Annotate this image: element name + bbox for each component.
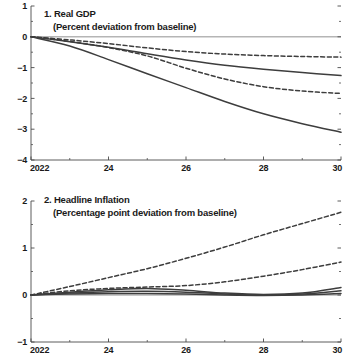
panel-headline-inflation: 210−1202224262830 2. Headline Inflation … [0,180,354,360]
x-tick-label: 30 [332,345,342,355]
x-tick-label: 24 [104,163,114,173]
x-tick-label: 30 [332,163,342,173]
panel-real-gdp: 10−1−2−3−4202224262830 1. Real GDP (Perc… [0,0,354,180]
y-tick-label: −2 [17,94,27,104]
y-tick-label: −4 [17,155,27,165]
series-line-series-1-dashed-upper [31,37,341,57]
x-tick-label: 26 [181,345,191,355]
x-tick-label: 2022 [30,163,49,173]
x-tick-label: 24 [104,345,114,355]
x-tick-label: 2022 [30,345,49,355]
figure-root: 10−1−2−3−4202224262830 1. Real GDP (Perc… [0,0,354,360]
series-line-series-3-dashed-lower [31,37,341,94]
x-tick-label: 28 [259,345,269,355]
y-tick-label: 1 [22,243,27,253]
panel-1-title: 1. Real GDP [44,8,96,20]
y-tick-label: −1 [17,63,27,73]
y-tick-label: 2 [22,196,27,206]
panel-2-subtitle: (Percentage point deviation from baselin… [53,207,237,219]
panel-2-title: 2. Headline Inflation [44,194,130,206]
y-tick-label: 1 [22,1,27,11]
x-tick-label: 28 [259,163,269,173]
panel-1-subtitle: (Percent deviation from baseline) [53,21,196,33]
y-tick-label: 0 [22,290,27,300]
x-tick-label: 26 [181,163,191,173]
series-line-series-1-dashed-upper [31,212,341,295]
y-tick-label: −1 [17,337,27,347]
y-tick-label: 0 [22,32,27,42]
y-tick-label: −3 [17,124,27,134]
